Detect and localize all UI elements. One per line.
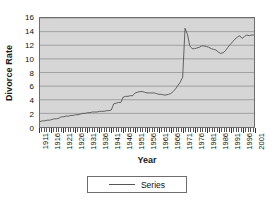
x-tick-mark bbox=[248, 128, 249, 132]
y-tick-label: 2 bbox=[30, 110, 34, 119]
x-tick-mark bbox=[128, 128, 129, 132]
x-tick-mark bbox=[109, 128, 110, 132]
x-tick-mark bbox=[125, 128, 126, 132]
x-tick-mark bbox=[190, 128, 191, 132]
x-tick-label: 1956 bbox=[150, 133, 158, 150]
x-tick-mark bbox=[188, 128, 189, 132]
x-tick-mark bbox=[181, 128, 182, 132]
x-tick-mark bbox=[68, 128, 69, 132]
x-tick-mark bbox=[205, 128, 206, 132]
x-tick-label: 1966 bbox=[174, 133, 182, 150]
x-tick-mark bbox=[176, 128, 177, 132]
x-tick-label: 1986 bbox=[222, 133, 230, 150]
y-axis-tick-labels: 0246810121416 bbox=[16, 13, 36, 133]
x-tick-mark bbox=[164, 128, 165, 132]
x-tick-mark bbox=[130, 128, 131, 132]
x-tick-mark bbox=[104, 128, 105, 132]
x-tick-mark bbox=[169, 128, 170, 132]
x-tick-label: 1941 bbox=[114, 133, 122, 150]
x-tick-mark bbox=[137, 128, 138, 132]
x-tick-mark bbox=[202, 128, 203, 132]
x-tick-mark bbox=[238, 128, 239, 132]
x-tick-label: 1926 bbox=[78, 133, 86, 150]
gridlines bbox=[40, 18, 254, 113]
y-tick-label: 6 bbox=[30, 82, 34, 91]
x-tick-mark bbox=[212, 128, 213, 132]
x-tick-mark bbox=[233, 128, 234, 132]
x-tick-label: 1946 bbox=[126, 133, 134, 150]
x-tick-label: 2001 bbox=[258, 133, 266, 150]
x-tick-mark bbox=[149, 128, 150, 132]
x-tick-mark bbox=[193, 128, 194, 132]
x-tick-mark bbox=[217, 128, 218, 132]
series-line-0 bbox=[40, 28, 254, 121]
y-tick-label: 16 bbox=[25, 13, 34, 22]
x-tick-label: 1996 bbox=[246, 133, 254, 150]
x-tick-mark bbox=[214, 128, 215, 132]
x-tick-mark bbox=[41, 128, 42, 132]
x-tick-mark bbox=[89, 128, 90, 132]
x-tick-label: 1936 bbox=[102, 133, 110, 150]
x-axis-tick-labels: 1911191619211926193119361941194619511956… bbox=[39, 133, 255, 157]
plot-area bbox=[39, 17, 255, 128]
x-tick-mark bbox=[145, 128, 146, 132]
x-tick-mark bbox=[185, 128, 186, 132]
y-axis-title: Divorce Rate bbox=[2, 18, 16, 128]
legend-label-series: Series bbox=[141, 180, 165, 190]
x-tick-mark bbox=[152, 128, 153, 132]
x-tick-label: 1916 bbox=[54, 133, 62, 150]
x-tick-mark bbox=[224, 128, 225, 132]
x-tick-mark bbox=[44, 128, 45, 132]
x-tick-mark bbox=[80, 128, 81, 132]
x-tick-label: 1921 bbox=[66, 133, 74, 150]
x-tick-label: 1991 bbox=[234, 133, 242, 150]
x-tick-mark bbox=[56, 128, 57, 132]
x-tick-mark bbox=[133, 128, 134, 132]
x-tick-mark bbox=[113, 128, 114, 132]
x-tick-mark bbox=[255, 128, 256, 133]
x-tick-mark bbox=[101, 128, 102, 132]
x-tick-label: 1931 bbox=[90, 133, 98, 150]
x-tick-mark bbox=[77, 128, 78, 132]
x-tick-mark bbox=[58, 128, 59, 132]
x-tick-mark bbox=[116, 128, 117, 132]
x-tick-mark bbox=[241, 128, 242, 132]
x-tick-mark bbox=[70, 128, 71, 132]
y-tick-label: 10 bbox=[25, 54, 34, 63]
y-tick-label: 14 bbox=[25, 26, 34, 35]
chart-figure: Divorce Rate 0246810121416 1911191619211… bbox=[0, 0, 274, 205]
x-tick-mark bbox=[229, 128, 230, 132]
x-tick-mark bbox=[253, 128, 254, 132]
x-tick-label: 1971 bbox=[186, 133, 194, 150]
x-tick-mark bbox=[140, 128, 141, 132]
x-tick-mark bbox=[61, 128, 62, 132]
x-tick-mark bbox=[142, 128, 143, 132]
x-tick-mark bbox=[118, 128, 119, 132]
x-tick-mark bbox=[121, 128, 122, 132]
x-tick-mark bbox=[197, 128, 198, 132]
y-tick-label: 4 bbox=[30, 96, 34, 105]
x-tick-label: 1911 bbox=[42, 133, 50, 149]
plot-svg bbox=[40, 18, 254, 127]
x-axis-title: Year bbox=[39, 155, 255, 165]
x-tick-mark bbox=[85, 128, 86, 132]
x-tick-mark bbox=[92, 128, 93, 132]
y-tick-label: 0 bbox=[30, 124, 34, 133]
y-tick-label: 12 bbox=[25, 40, 34, 49]
x-tick-mark bbox=[209, 128, 210, 132]
x-tick-label: 1961 bbox=[162, 133, 170, 150]
series-lines bbox=[40, 28, 254, 121]
x-tick-label: 1976 bbox=[198, 133, 206, 150]
x-tick-mark bbox=[97, 128, 98, 132]
x-tick-mark bbox=[82, 128, 83, 132]
x-tick-mark bbox=[106, 128, 107, 132]
x-tick-mark bbox=[73, 128, 74, 132]
chart-legend: Series bbox=[87, 176, 187, 193]
x-tick-mark bbox=[157, 128, 158, 132]
x-tick-label: 1951 bbox=[138, 133, 146, 150]
x-tick-mark bbox=[200, 128, 201, 132]
y-tick-label: 8 bbox=[30, 68, 34, 77]
x-tick-mark bbox=[166, 128, 167, 132]
x-tick-mark bbox=[49, 128, 50, 132]
x-tick-mark bbox=[226, 128, 227, 132]
